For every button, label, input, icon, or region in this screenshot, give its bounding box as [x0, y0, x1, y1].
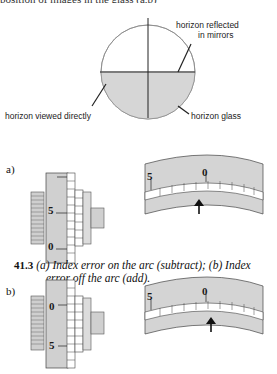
micrometer-a-mark-0: 0: [48, 240, 54, 252]
label-horizon-reflected: horizon reflected in mirrors: [176, 20, 239, 40]
arc-b-mark-5: 5: [147, 290, 153, 302]
micrometer-b-mark-5: 5: [49, 339, 55, 351]
arc-scale-b: [120, 270, 277, 360]
micrometer-b-mark-0: 0: [49, 300, 55, 312]
arc-a-mark-5: 5: [147, 170, 153, 182]
micrometer-drum-a: [0, 150, 120, 270]
label-line: in mirrors: [176, 30, 239, 40]
arc-a-mark-0: 0: [202, 166, 208, 178]
arc-scale-a: [120, 150, 277, 240]
micrometer-drum-b: [0, 270, 120, 374]
micrometer-a-mark-5: 5: [48, 204, 54, 216]
label-horizon-viewed-directly: horizon viewed directly: [5, 111, 91, 121]
arc-b-mark-0: 0: [202, 285, 208, 297]
label-line: horizon reflected: [176, 20, 239, 30]
label-horizon-glass: horizon glass: [191, 111, 241, 121]
